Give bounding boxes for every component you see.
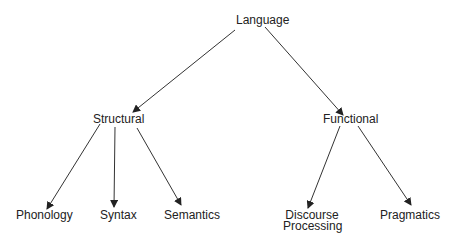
edge-functional-pragmatics <box>358 126 411 205</box>
edge-structural-semantics <box>137 128 181 205</box>
edge-structural-phonology <box>47 124 100 209</box>
node-semantics: Semantics <box>164 210 220 221</box>
node-discourse-processing: Discourse Processing <box>283 210 341 232</box>
node-functional: Functional <box>323 114 378 125</box>
edge-structural-syntax <box>114 127 115 207</box>
node-pragmatics: Pragmatics <box>380 210 440 221</box>
node-syntax: Syntax <box>100 210 137 221</box>
edge-language-functional <box>265 27 343 115</box>
node-phonology: Phonology <box>16 210 73 221</box>
edge-functional-discourse <box>308 126 340 208</box>
edge-language-structural <box>133 30 235 112</box>
discourse-line2: Processing <box>283 221 341 232</box>
node-language: Language <box>236 15 289 26</box>
node-structural: Structural <box>93 114 144 125</box>
language-tree-diagram: Language Structural Functional Phonology… <box>0 0 453 245</box>
